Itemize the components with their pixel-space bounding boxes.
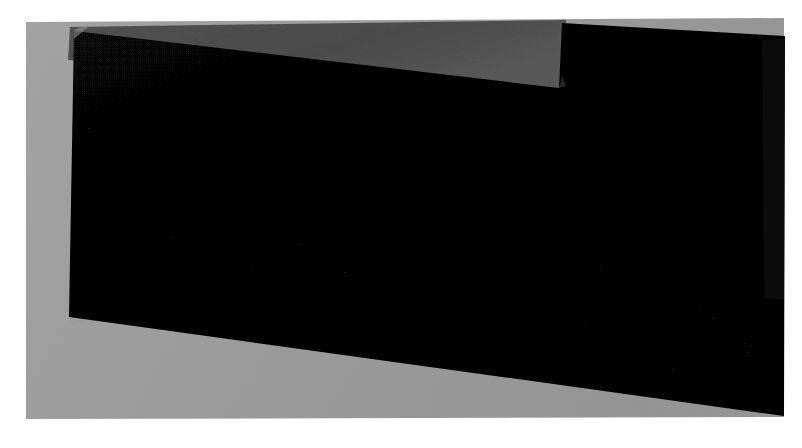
screen-right-edge-sheen (762, 38, 785, 300)
photo-stage: Photograph of a dark, powered-off flat d… (0, 0, 802, 448)
photograph-canvas (0, 0, 802, 448)
